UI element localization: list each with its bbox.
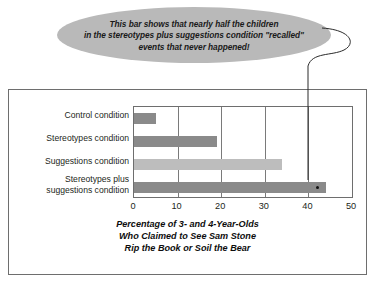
caption-line-1: Percentage of 3- and 4-Year-Olds: [8, 218, 367, 230]
category-label-stereotypes: Stereotypes condition: [14, 133, 129, 144]
bar-stereotypes-condition: [134, 136, 217, 147]
xtick-20: 20: [215, 201, 225, 211]
category-label-line: suggestions condition: [14, 185, 129, 196]
category-axis-labels: Control condition Stereotypes condition …: [14, 106, 129, 198]
category-label-control: Control condition: [14, 110, 129, 121]
category-label-line: Suggestions condition: [14, 156, 129, 167]
x-axis-title: Percentage of 3- and 4-Year-Olds Who Cla…: [8, 218, 367, 254]
bar-row: [134, 176, 326, 199]
category-label-line: Control condition: [14, 110, 129, 121]
category-label-suggestions: Suggestions condition: [14, 156, 129, 167]
bar-suggestions-condition: [134, 159, 282, 170]
bar-row: [134, 107, 156, 130]
plot-area: [133, 106, 353, 198]
bar-control-condition: [134, 113, 156, 124]
callout-line-2: in the stereotypes plus suggestions cond…: [84, 30, 304, 41]
category-label-line: Stereotypes plus: [14, 174, 129, 185]
callout-text: This bar shows that nearly half the chil…: [57, 12, 331, 60]
caption-line-3: Rip the Book or Soil the Bear: [8, 242, 367, 254]
caption-line-2: Who Claimed to See Sam Stone: [8, 230, 367, 242]
xtick-10: 10: [171, 201, 181, 211]
bar-row: [134, 130, 217, 153]
callout-line-1: This bar shows that nearly half the chil…: [110, 19, 279, 30]
category-label-line: Stereotypes condition: [14, 133, 129, 144]
figure-canvas: This bar shows that nearly half the chil…: [0, 0, 376, 286]
callout-line-3: events that never happened!: [138, 42, 249, 53]
xtick-50: 50: [346, 201, 356, 211]
xtick-30: 30: [259, 201, 269, 211]
x-axis-tick-labels: 0 10 20 30 40 50: [133, 201, 353, 215]
xtick-0: 0: [130, 201, 135, 211]
callout-target-dot: [316, 186, 319, 189]
bar-row: [134, 153, 282, 176]
bar-stereotypes-plus-suggestions-condition: [134, 182, 326, 193]
category-label-stereotypes-plus-suggestions: Stereotypes plus suggestions condition: [14, 174, 129, 195]
xtick-40: 40: [302, 201, 312, 211]
